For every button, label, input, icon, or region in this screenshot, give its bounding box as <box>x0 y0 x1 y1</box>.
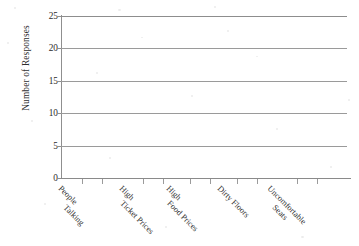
y-tick-label-5: 5 <box>32 141 58 151</box>
x-axis-line <box>61 178 351 179</box>
y-tick-label-0: 0 <box>32 173 58 183</box>
x-tick-mark-3 <box>143 179 144 184</box>
x-tick-mark-7 <box>237 179 238 184</box>
x-tick-mark-5 <box>190 179 191 184</box>
bar-chart-figure: Number of Responses 25 20 15 10 5 0 Peop… <box>0 0 359 246</box>
y-tick-label-20: 20 <box>32 43 58 53</box>
y-tick-label-25: 25 <box>32 11 58 21</box>
y-tick-label-15: 15 <box>32 76 58 86</box>
y-tick-label-10: 10 <box>32 108 58 118</box>
x-tick-mark-10 <box>317 179 318 184</box>
plot-area <box>61 16 347 178</box>
x-tick-mark-8 <box>257 179 258 184</box>
x-tick-mark-2 <box>102 179 103 184</box>
x-tick-mark-6 <box>210 179 211 184</box>
x-tick-mark-9 <box>297 179 298 184</box>
x-tick-mark-1 <box>82 179 83 184</box>
x-tick-mark-4 <box>163 179 164 184</box>
y-axis-title: Number of Responses <box>21 0 41 148</box>
